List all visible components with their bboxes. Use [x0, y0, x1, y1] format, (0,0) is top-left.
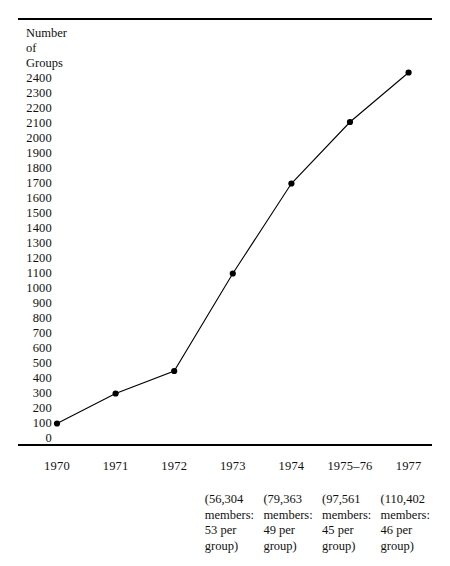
data-point-markers [54, 69, 412, 426]
y-tick-label: 1800 [0, 161, 64, 176]
annotation-line: members: [205, 508, 271, 524]
y-tick-label: 1500 [0, 206, 64, 221]
data-point-1977 [406, 69, 412, 75]
data-point-1975-76 [347, 119, 353, 125]
annotation-line: (79,363 [263, 492, 329, 508]
annotation-line: group) [322, 539, 388, 555]
annotation-1973: (56,304members:53 pergroup) [205, 492, 271, 554]
y-tick-label: 1400 [0, 221, 64, 236]
x-tick-label: 1977 [396, 458, 422, 474]
y-tick-label: 1900 [0, 146, 64, 161]
x-tick-label: 1971 [103, 458, 129, 474]
top-horizontal-rule [18, 18, 432, 20]
annotation-group: (56,304members:53 pergroup)(79,363member… [0, 492, 450, 566]
annotation-line: (97,561 [322, 492, 388, 508]
y-tick-label: 2200 [0, 101, 64, 116]
y-tick-label: 800 [0, 311, 64, 326]
data-point-1974 [288, 180, 294, 186]
y-tick-label: 1700 [0, 176, 64, 191]
line-chart-svg [0, 0, 450, 566]
y-tick-label: 300 [0, 386, 64, 401]
y-tick-label: 2000 [0, 131, 64, 146]
annotation-line: group) [263, 539, 329, 555]
y-tick-label: 2300 [0, 86, 64, 101]
annotation-line: (110,402 [381, 492, 447, 508]
x-axis: 197019711972197319741975–761977 [0, 458, 450, 478]
annotation-1975-76: (97,561members:45 pergroup) [322, 492, 388, 554]
x-tick-label: 1975–76 [327, 458, 372, 474]
x-tick-label: 1974 [278, 458, 304, 474]
y-tick-label: 2400 [0, 71, 64, 86]
y-tick-label: 1000 [0, 281, 64, 296]
y-tick-label: 900 [0, 296, 64, 311]
chart-page: Number of Groups 24002300220021002000190… [0, 0, 450, 566]
data-series-line [57, 73, 409, 424]
plot-area [0, 0, 450, 566]
annotation-line: 53 per [205, 523, 271, 539]
annotation-line: group) [205, 539, 271, 555]
x-tick-label: 1973 [220, 458, 246, 474]
bottom-horizontal-rule [18, 444, 432, 446]
y-tick-label: 100 [0, 416, 64, 431]
y-tick-label: 700 [0, 326, 64, 341]
annotation-line: members: [322, 508, 388, 524]
y-axis-title-line-1: Number [0, 26, 64, 41]
annotation-line: members: [263, 508, 329, 524]
x-tick-label: 1970 [44, 458, 70, 474]
y-axis-title-line-3: Groups [0, 56, 64, 71]
y-tick-label: 600 [0, 341, 64, 356]
y-tick-label: 1100 [0, 266, 64, 281]
annotation-1977: (110,402members:46 pergroup) [381, 492, 447, 554]
y-tick-label: 1600 [0, 191, 64, 206]
y-tick-label: 500 [0, 356, 64, 371]
y-tick-label: 2100 [0, 116, 64, 131]
annotation-line: (56,304 [205, 492, 271, 508]
annotation-line: members: [381, 508, 447, 524]
annotation-line: 45 per [322, 523, 388, 539]
annotation-1974: (79,363members:49 pergroup) [263, 492, 329, 554]
y-tick-label: 400 [0, 371, 64, 386]
data-point-1973 [230, 270, 236, 276]
annotation-line: 49 per [263, 523, 329, 539]
y-axis: Number of Groups 24002300220021002000190… [0, 26, 64, 446]
y-tick-label: 0 [0, 431, 64, 446]
y-tick-label: 1300 [0, 236, 64, 251]
data-point-1972 [171, 368, 177, 374]
y-tick-label: 1200 [0, 251, 64, 266]
y-tick-label: 200 [0, 401, 64, 416]
y-tick-labels: 2400230022002100200019001800170016001500… [0, 71, 64, 446]
annotation-line: group) [381, 539, 447, 555]
data-point-1971 [113, 390, 119, 396]
annotation-line: 46 per [381, 523, 447, 539]
y-axis-title-line-2: of [0, 41, 64, 56]
x-tick-label: 1972 [161, 458, 187, 474]
